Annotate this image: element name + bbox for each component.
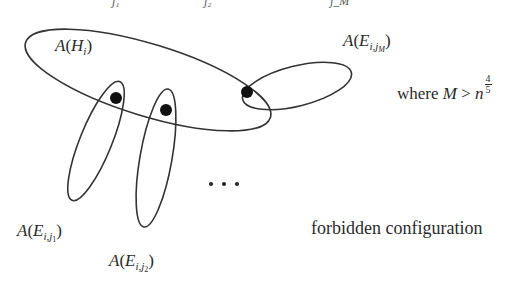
big-ellipse-H: [15, 8, 281, 152]
diagram-canvas: j₁ j₂ j_M A(Hi) A(Ei,jM) where M > n45: [0, 0, 527, 282]
caption-forbidden-configuration: forbidden configuration: [311, 219, 482, 237]
label-A-H-i: A(Hi): [55, 37, 92, 54]
exponent-fraction: 45: [485, 74, 492, 95]
condition-text: where M > n45: [397, 74, 492, 102]
right-ellipse-jM: [238, 53, 356, 119]
label-A-E-j2: A(Ei,j2): [109, 252, 154, 270]
ellipse-j2: [128, 86, 184, 229]
label-A-E-jM: A(Ei,jM): [343, 32, 391, 50]
label-A-E-j1: A(Ei,j1): [17, 222, 62, 240]
vertex-dot-j2: [160, 104, 172, 116]
vertex-dot-j1: [110, 92, 122, 104]
vertex-dot-jM: [241, 86, 253, 98]
ellipsis-dots: [209, 182, 239, 186]
ellipse-j1: [57, 76, 135, 207]
